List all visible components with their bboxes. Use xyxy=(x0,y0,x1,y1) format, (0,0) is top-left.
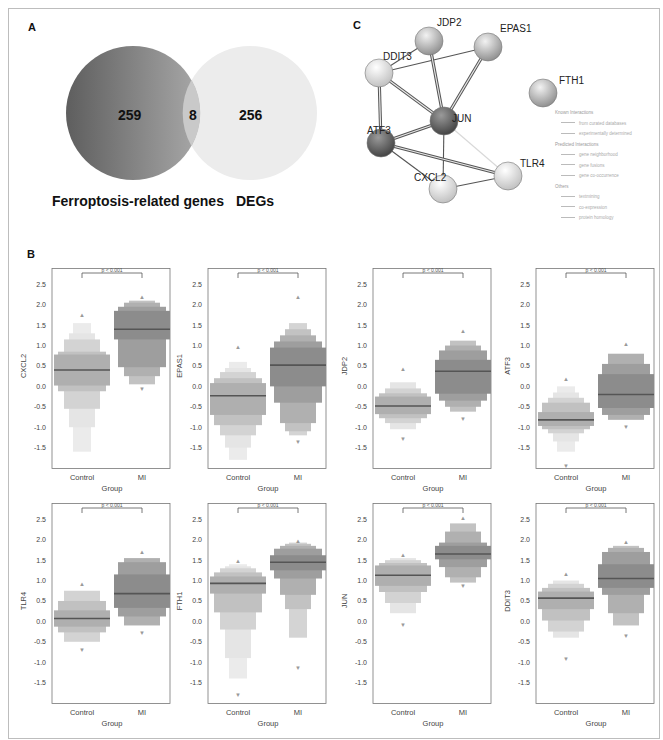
x-tick-label: Control xyxy=(226,708,251,717)
outlier-marker: ▲ xyxy=(235,558,241,564)
x-tick-label: Control xyxy=(70,473,95,482)
node-jdp2[interactable] xyxy=(415,27,443,55)
y-tick-label: 0.5 xyxy=(520,362,530,369)
node-tlr4[interactable] xyxy=(494,162,522,190)
outlier-marker: ▼ xyxy=(400,436,406,442)
outlier-marker: ▼ xyxy=(295,665,301,671)
y-tick-label: 2.5 xyxy=(357,281,367,288)
y-axis-label: JDP2 xyxy=(340,357,349,375)
legend-item: gene fusions xyxy=(555,161,655,172)
outlier-marker: ▼ xyxy=(623,633,629,639)
node-epas1[interactable] xyxy=(474,33,502,61)
y-tick-label: -1.0 xyxy=(518,424,530,431)
y-tick-label: 2.0 xyxy=(520,536,530,543)
outlier-marker: ▲ xyxy=(623,341,629,347)
node-label-atf3: ATF3 xyxy=(367,125,391,136)
y-tick-label: -1.0 xyxy=(355,659,367,666)
y-axis-label: ATF3 xyxy=(503,357,512,375)
y-tick-label: 0.0 xyxy=(192,383,202,390)
y-tick-label: 0.5 xyxy=(520,597,530,604)
y-tick-label: 0.0 xyxy=(357,618,367,625)
y-tick-label: -1.5 xyxy=(518,444,530,451)
y-tick-label: 1.0 xyxy=(520,577,530,584)
p-value-label: p < 0.001 xyxy=(258,503,279,508)
outlier-marker: ▲ xyxy=(400,552,406,558)
y-tick-label: 1.0 xyxy=(520,342,530,349)
y-axis-label: DDIT3 xyxy=(503,590,512,612)
outlier-marker: ▼ xyxy=(139,386,145,392)
p-value-label: p < 0.001 xyxy=(423,268,444,273)
y-tick-label: -0.5 xyxy=(355,403,367,410)
legend-known-header: Known Interactions xyxy=(555,108,655,119)
x-tick-label: Control xyxy=(391,708,416,717)
outlier-marker: ▲ xyxy=(295,538,301,544)
y-tick-label: 2.0 xyxy=(36,301,46,308)
y-tick-label: -1.5 xyxy=(190,444,202,451)
outlier-marker: ▼ xyxy=(139,630,145,636)
y-tick-label: -0.5 xyxy=(190,403,202,410)
y-tick-label: 0.0 xyxy=(192,618,202,625)
x-tick-label: Control xyxy=(554,708,579,717)
venn-left-label: Ferroptosis-related genes xyxy=(52,193,224,209)
y-tick-label: 1.0 xyxy=(36,577,46,584)
y-tick-label: -0.5 xyxy=(34,403,46,410)
y-tick-label: 2.5 xyxy=(357,516,367,523)
y-tick-label: 0.5 xyxy=(357,597,367,604)
y-tick-label: -0.5 xyxy=(518,403,530,410)
y-tick-label: -1.5 xyxy=(355,444,367,451)
legend-item: protein homology xyxy=(555,213,655,224)
x-axis-label: Group xyxy=(423,484,444,493)
outlier-marker: ▼ xyxy=(460,583,466,589)
y-tick-label: 2.5 xyxy=(520,281,530,288)
y-tick-label: 1.5 xyxy=(36,557,46,564)
node-label-epas1: EPAS1 xyxy=(500,23,532,34)
node-label-jun: JUN xyxy=(452,113,471,124)
x-tick-label: Control xyxy=(391,473,416,482)
node-fth1[interactable] xyxy=(529,79,557,107)
x-tick-label: MI xyxy=(459,473,467,482)
x-tick-label: MI xyxy=(294,473,302,482)
y-tick-label: 2.0 xyxy=(36,536,46,543)
y-tick-label: -1.0 xyxy=(190,659,202,666)
outlier-marker: ▲ xyxy=(563,571,569,577)
legend-item: gene neighborhood xyxy=(555,150,655,161)
y-axis-label: TLR4 xyxy=(19,592,28,610)
y-tick-label: 1.5 xyxy=(192,557,202,564)
y-tick-label: -1.5 xyxy=(190,679,202,686)
node-label-tlr4: TLR4 xyxy=(520,158,544,169)
x-axis-label: Group xyxy=(102,719,123,728)
legend-item: gene co-occurrence xyxy=(555,171,655,182)
x-axis-label: Group xyxy=(258,484,279,493)
y-tick-label: -0.5 xyxy=(190,638,202,645)
y-tick-label: -1.0 xyxy=(355,424,367,431)
outlier-marker: ▼ xyxy=(563,656,569,662)
x-axis-label: Group xyxy=(586,719,607,728)
legend-item: experimentally determined xyxy=(555,129,655,140)
y-tick-label: 0.0 xyxy=(36,618,46,625)
y-tick-label: 2.5 xyxy=(192,281,202,288)
node-ddit3[interactable] xyxy=(365,59,393,87)
outlier-marker: ▲ xyxy=(295,294,301,300)
y-axis-label: EPAS1 xyxy=(175,354,184,378)
x-axis-label: Group xyxy=(258,719,279,728)
y-axis-label: CXCL2 xyxy=(19,354,28,378)
outlier-marker: ▲ xyxy=(460,328,466,334)
y-tick-label: 1.0 xyxy=(192,577,202,584)
p-value-label: p < 0.001 xyxy=(586,268,607,273)
y-tick-label: 2.5 xyxy=(520,516,530,523)
legend-others-header: Others xyxy=(555,182,655,193)
y-tick-label: -1.5 xyxy=(34,679,46,686)
x-tick-label: Control xyxy=(226,473,251,482)
y-tick-label: 0.5 xyxy=(36,597,46,604)
node-label-cxcl2: CXCL2 xyxy=(414,172,446,183)
y-tick-label: 2.0 xyxy=(357,301,367,308)
y-tick-label: -1.5 xyxy=(355,679,367,686)
outlier-marker: ▲ xyxy=(400,366,406,372)
y-tick-label: 0.0 xyxy=(520,618,530,625)
outlier-marker: ▼ xyxy=(460,416,466,422)
y-tick-label: 1.5 xyxy=(192,322,202,329)
outlier-marker: ▲ xyxy=(139,294,145,300)
outlier-marker: ▼ xyxy=(295,439,301,445)
y-tick-label: 1.5 xyxy=(520,557,530,564)
y-tick-label: -1.0 xyxy=(34,659,46,666)
